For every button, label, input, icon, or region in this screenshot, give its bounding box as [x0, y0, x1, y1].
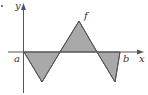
corner-mark — [1, 5, 3, 7]
diagram-canvas: y x f a b — [0, 0, 148, 95]
x-axis-label: x — [139, 53, 145, 64]
shaded-region-below-right — [97, 52, 120, 82]
shaded-region-below-left — [24, 52, 60, 82]
y-axis-label: y — [14, 0, 21, 11]
lower-bound-label: a — [14, 53, 20, 64]
function-label: f — [83, 10, 90, 21]
y-axis-arrow-icon — [21, 3, 26, 10]
shaded-region-above — [60, 21, 97, 52]
upper-bound-label: b — [123, 53, 129, 64]
